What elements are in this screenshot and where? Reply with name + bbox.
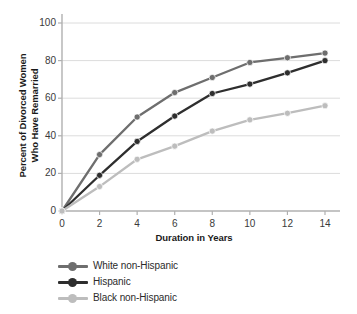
x-tick-label-12: 12 [272,219,302,229]
legend-label: Hispanic [93,276,131,288]
legend-marker-icon [58,292,88,304]
x-tick-label-6: 6 [160,219,190,229]
legend-marker-icon [58,260,88,272]
legend-item[interactable]: Black non-Hispanic [58,290,298,306]
chart-container: Percent of Divorced Women Who Have Remar… [0,0,357,314]
legend-dot-icon [68,278,77,287]
legend-label: Black non-Hispanic [93,292,177,304]
x-tick-label-0: 0 [47,219,77,229]
legend-dot-icon [68,262,77,271]
legend-item[interactable]: Hispanic [58,274,298,290]
chart-legend: White non-HispanicHispanicBlack non-Hisp… [58,258,298,306]
legend-item[interactable]: White non-Hispanic [58,258,298,274]
legend-marker-icon [58,276,88,288]
x-tick-label-2: 2 [85,219,115,229]
x-tick-label-8: 8 [197,219,227,229]
legend-dot-icon [68,294,77,303]
x-tick-label-4: 4 [122,219,152,229]
legend-label: White non-Hispanic [93,260,178,272]
x-tick-label-14: 14 [310,219,340,229]
x-tick-label-10: 10 [235,219,265,229]
x-axis-title: Duration in Years [62,232,326,243]
